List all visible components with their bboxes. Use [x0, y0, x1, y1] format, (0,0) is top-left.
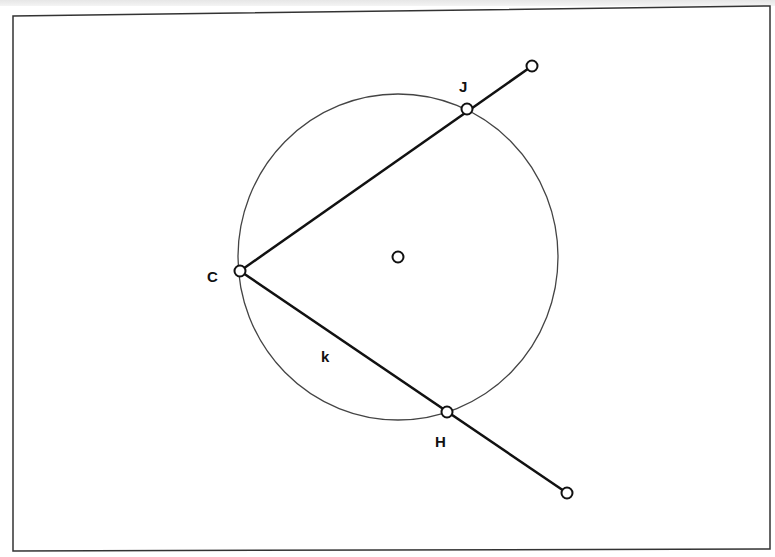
point-h[interactable]	[442, 407, 453, 418]
label-c: C	[207, 268, 218, 285]
ray-c-h	[240, 271, 567, 493]
label-h: H	[435, 433, 446, 450]
label-k: k	[321, 348, 330, 365]
geometry-canvas: C J H k	[0, 0, 775, 557]
point-ray2-end[interactable]	[562, 488, 573, 499]
point-j[interactable]	[462, 104, 473, 115]
point-center[interactable]	[393, 252, 404, 263]
point-ray1-end[interactable]	[527, 61, 538, 72]
frame-border	[13, 6, 770, 551]
label-j: J	[459, 78, 467, 95]
point-c[interactable]	[235, 266, 246, 277]
ray-c-j	[240, 66, 532, 271]
